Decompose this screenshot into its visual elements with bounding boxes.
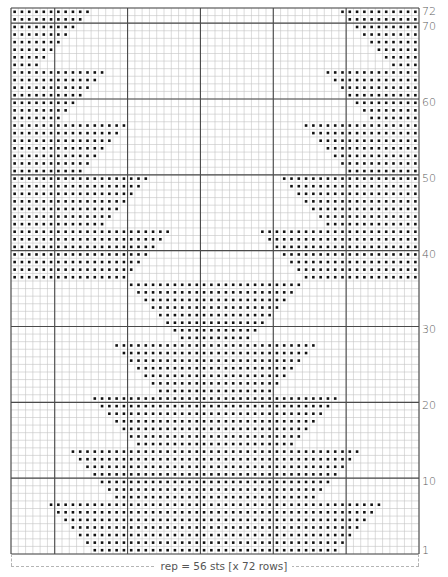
row-label-10: 10 bbox=[422, 476, 436, 487]
knitting-chart-grid bbox=[0, 0, 448, 577]
repeat-caption-text: rep = 56 sts [x 72 rows] bbox=[156, 560, 293, 572]
row-label-1: 1 bbox=[422, 545, 429, 556]
row-label-60: 60 bbox=[422, 97, 436, 108]
fine-grid-lines bbox=[11, 8, 419, 554]
repeat-caption: rep = 56 sts [x 72 rows] bbox=[0, 560, 448, 572]
row-label-50: 50 bbox=[422, 173, 436, 184]
row-label-72: 72 bbox=[422, 6, 436, 17]
row-label-40: 40 bbox=[422, 249, 436, 260]
row-label-70: 70 bbox=[422, 21, 436, 32]
row-label-30: 30 bbox=[422, 324, 436, 335]
row-label-20: 20 bbox=[422, 400, 436, 411]
